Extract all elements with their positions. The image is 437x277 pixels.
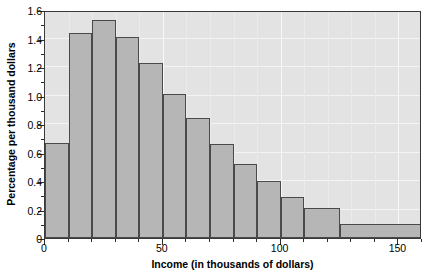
x-axis-minor-tick (350, 239, 351, 242)
x-axis-minor-tick (138, 239, 139, 242)
gridline-vertical (328, 12, 329, 238)
x-axis-minor-tick (233, 239, 234, 242)
x-axis-minor-tick (115, 239, 116, 242)
x-axis-minor-tick (303, 239, 304, 242)
x-axis-tick-label: 100 (260, 242, 300, 254)
x-axis-tick-label: 0 (24, 242, 64, 254)
x-axis-tick-label: 50 (142, 242, 182, 254)
y-axis-minor-tick (41, 82, 44, 83)
histogram-bar (92, 20, 116, 238)
gridline-vertical (375, 12, 376, 238)
y-axis-tick-label: 0.2 (8, 206, 42, 216)
gridline-vertical (398, 12, 399, 238)
y-axis-tick-label: 0.8 (8, 120, 42, 130)
y-axis-tick-label: 0.4 (8, 177, 42, 187)
histogram-bar (116, 37, 140, 238)
x-axis-minor-tick (256, 239, 257, 242)
histogram-bar (257, 181, 281, 238)
histogram-bar (45, 143, 69, 238)
x-axis-minor-tick (421, 239, 422, 242)
y-axis-minor-tick (41, 168, 44, 169)
x-axis-minor-tick (327, 239, 328, 242)
y-axis-minor-tick (41, 25, 44, 26)
histogram-bar (186, 118, 210, 238)
y-axis-tick-label: 1.6 (8, 6, 42, 16)
histogram-bar (304, 208, 339, 238)
y-axis-minor-tick (41, 225, 44, 226)
y-axis-minor-tick (41, 111, 44, 112)
y-axis-minor-tick (41, 54, 44, 55)
plot-area (44, 11, 421, 239)
x-axis-minor-tick (68, 239, 69, 242)
histogram-bar (340, 224, 421, 238)
x-axis-minor-tick (185, 239, 186, 242)
y-axis-minor-tick (41, 139, 44, 140)
histogram-bar (69, 33, 93, 238)
x-axis-minor-tick (209, 239, 210, 242)
histogram-bar (163, 94, 187, 238)
y-axis-minor-tick (41, 196, 44, 197)
gridline-vertical (304, 12, 305, 238)
x-axis-title: Income (in thousands of dollars) (44, 258, 421, 270)
y-axis-tick-label: 0.6 (8, 149, 42, 159)
y-axis-tick-label: 1.0 (8, 92, 42, 102)
histogram-figure: Percentage per thousand dollars Income (… (0, 0, 437, 277)
y-axis-tick-label: 1.4 (8, 35, 42, 45)
gridline-vertical (351, 12, 352, 238)
histogram-bar (281, 197, 305, 238)
x-axis-minor-tick (374, 239, 375, 242)
x-axis-tick-label: 150 (377, 242, 417, 254)
histogram-bar (139, 63, 163, 238)
y-axis-tick-label: 1.2 (8, 63, 42, 73)
histogram-bar (210, 144, 234, 238)
histogram-bar (234, 164, 258, 238)
x-axis-minor-tick (91, 239, 92, 242)
